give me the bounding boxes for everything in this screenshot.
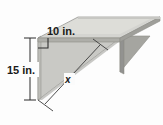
shelf-front-edge	[38, 38, 120, 42]
figure-canvas: 15 in. 10 in. x	[0, 0, 163, 125]
hypotenuse-dimension-label: x	[64, 74, 71, 85]
vertical-dimension-label: 15 in.	[7, 64, 35, 76]
shelf-bracket-figure: 15 in. 10 in. x	[0, 0, 163, 125]
shelf-back-edge	[78, 17, 160, 19]
top-dimension-label: 10 in.	[47, 25, 75, 37]
